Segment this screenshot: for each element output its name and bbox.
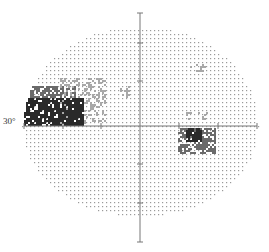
visual-field-plot [0, 0, 269, 252]
paracentral-patch [120, 86, 130, 98]
axes [24, 13, 257, 242]
superior-nasal-patch [190, 64, 206, 72]
temporal-dense-defect [24, 98, 84, 126]
eccentricity-label: 30° [3, 117, 16, 126]
defect-regions [24, 64, 216, 154]
inferior-nasal-scotoma-core [186, 128, 202, 142]
nasal-patch-near-axis [186, 112, 208, 120]
